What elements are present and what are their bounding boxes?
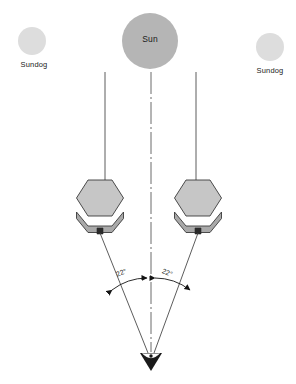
sundog-right-label: Sundog (244, 67, 296, 75)
observer-eye-pupil (149, 354, 152, 357)
ice-crystal-left (77, 180, 124, 234)
sun-label: Sun (122, 35, 178, 44)
sundog-right-disc (256, 33, 284, 61)
refracted-ray-right (154, 233, 198, 353)
crystal-left-face (77, 180, 124, 216)
angle-arc-left (112, 278, 147, 290)
diagram-canvas: Sun Sundog Sundog 22° 22° (0, 0, 296, 384)
angle-arc-right (155, 278, 190, 290)
crystal-right-face (175, 180, 222, 216)
sundog-diagram (0, 0, 296, 384)
sundog-left-label: Sundog (8, 61, 60, 69)
sundog-left-disc (18, 27, 46, 55)
observer-eye (140, 353, 162, 371)
refracted-ray-left (100, 233, 148, 353)
ice-crystal-right (175, 180, 222, 234)
